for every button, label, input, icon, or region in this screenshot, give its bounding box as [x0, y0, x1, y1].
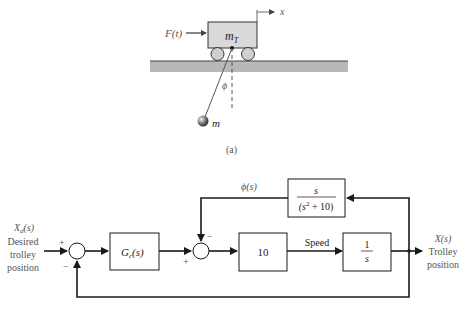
sum1-plus-sign: +: [59, 237, 65, 248]
pendulum-mass: [198, 116, 209, 127]
pendulum-mass-label: m: [212, 117, 220, 129]
feedback-numerator: s: [314, 185, 318, 196]
sum1-minus-sign: −: [63, 261, 69, 272]
output-desc-line2: position: [427, 259, 459, 270]
phi-signal-label: ϕ(s): [241, 181, 257, 193]
wheel-left: [211, 48, 224, 61]
speed-label: Speed: [305, 237, 329, 248]
output-symbol: X(s): [434, 233, 452, 245]
angle-label: ϕ: [222, 80, 227, 91]
sum2-plus-sign: +: [183, 256, 189, 267]
input-desc-line2: trolley: [10, 249, 36, 260]
force-label: F(t): [164, 27, 182, 40]
diagram-canvas: F(t) mT x ϕ m (a): [0, 0, 465, 313]
input-desc-line1: Desired: [7, 236, 38, 247]
input-desc-line3: position: [7, 262, 39, 273]
summing-junction-1: [69, 243, 85, 259]
controller-label: Gc(s): [121, 246, 144, 260]
input-label: Xd(s): [13, 222, 35, 235]
figure-caption: (a): [226, 144, 237, 156]
x-axis-label: x: [279, 6, 285, 17]
ground: [150, 61, 348, 72]
integrator-numerator: 1: [365, 239, 370, 250]
wheel-right: [242, 48, 255, 61]
gain-value: 10: [258, 246, 270, 258]
integrator-denominator: s: [365, 253, 369, 264]
sum2-minus-sign: −: [207, 231, 213, 242]
output-desc-line1: Trolley: [428, 246, 457, 257]
block-diagram: [44, 179, 422, 297]
feedback-denominator: (s2 + 10): [299, 200, 334, 213]
summing-junction-2: [193, 243, 209, 259]
